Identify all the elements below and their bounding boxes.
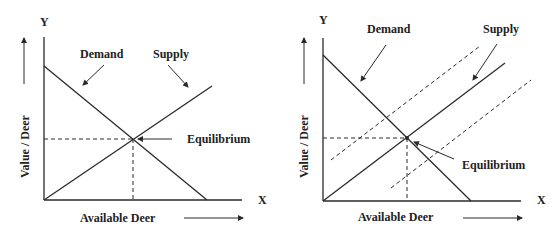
right-equilibrium-label: Equilibrium — [462, 158, 525, 172]
left-y-axis-label: Value / Deer — [18, 114, 32, 178]
right-x-axis-letter: X — [537, 193, 546, 207]
left-supply-arrow-icon — [168, 65, 188, 87]
right-equilibrium-point — [405, 136, 409, 140]
left-supply-label: Supply — [153, 47, 189, 61]
left-equilibrium-label: Equilibrium — [187, 132, 250, 146]
left-y-axis-letter: Y — [40, 15, 49, 29]
left-demand-label: Demand — [80, 47, 124, 61]
right-supply-label: Supply — [483, 22, 519, 36]
supply-demand-diagrams: Y X Value / Deer Available Deer Demand S… — [0, 0, 552, 238]
right-x-axis-label: Available Deer — [358, 210, 434, 224]
left-x-axis-letter: X — [258, 193, 267, 207]
right-demand-arrow-icon — [361, 45, 386, 81]
left-demand-arrow-icon — [83, 65, 104, 85]
right-y-axis-label: Value / Deer — [297, 114, 311, 178]
right-demand-label: Demand — [367, 22, 411, 36]
left-x-axis-label: Available Deer — [80, 211, 156, 225]
left-demand-line — [44, 66, 207, 200]
right-y-axis-letter: Y — [319, 13, 328, 27]
right-supply-shifted-up-line — [331, 46, 480, 160]
right-supply-arrow-icon — [473, 44, 497, 80]
left-chart: Y X Value / Deer Available Deer Demand S… — [18, 15, 267, 225]
right-demand-line — [323, 55, 471, 201]
right-supply-line — [323, 63, 505, 201]
right-chart: Y X Value / Deer Available Deer Demand S… — [297, 13, 546, 224]
